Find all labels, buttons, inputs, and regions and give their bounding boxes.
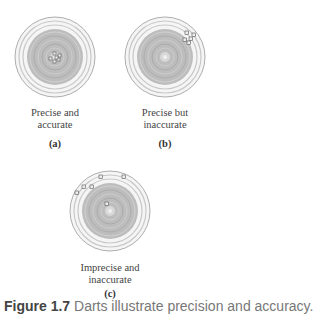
figure-caption: Figure 1.7 Darts illustrate precision an… <box>4 298 313 314</box>
panel-c-title-line1: Imprecise and <box>60 262 160 274</box>
figure-caption-text: Darts illustrate precision and accuracy. <box>74 298 313 314</box>
panel-c-title: Imprecise and inaccurate <box>60 262 160 286</box>
panel-b-title-line1: Precise but <box>115 107 215 119</box>
dartboard-b-icon <box>124 16 206 98</box>
dartboard-c-icon <box>69 170 151 252</box>
target-a <box>14 16 96 98</box>
panel-b-letter: (b) <box>115 138 215 149</box>
panel-a-title: Precise and accurate <box>5 107 105 131</box>
panel-c-title-line2: inaccurate <box>60 274 160 286</box>
panel-b-title: Precise but inaccurate <box>115 107 215 131</box>
target-b <box>124 16 206 98</box>
panel-a-title-line2: accurate <box>5 119 105 131</box>
target-c <box>69 170 151 252</box>
panel-b-title-line2: inaccurate <box>115 119 215 131</box>
panel-a-letter: (a) <box>5 138 105 149</box>
dartboard-a-icon <box>14 16 96 98</box>
figure-number: Figure 1.7 <box>4 298 70 314</box>
panel-a-title-line1: Precise and <box>5 107 105 119</box>
